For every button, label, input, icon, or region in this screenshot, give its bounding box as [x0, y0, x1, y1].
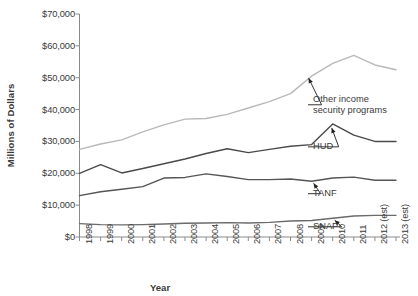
- hud-annotation-label: HUD: [313, 141, 333, 152]
- annotation-arrowhead: [331, 128, 335, 133]
- y-axis-tick-label: $30,000: [42, 136, 75, 146]
- y-axis-title-text: Millions of Dollars: [6, 83, 17, 167]
- other-income-annotation-line1: Other income: [313, 94, 387, 105]
- y-axis-tick-label: $50,000: [42, 73, 75, 83]
- axes: [80, 14, 401, 237]
- x-axis-tick-label: 2012 (est): [379, 204, 389, 244]
- x-axis-tick-label: 2006: [252, 224, 262, 244]
- x-axis-tick-label: 2003: [189, 224, 199, 244]
- y-axis-tick-label: $40,000: [42, 105, 75, 115]
- y-axis-tick-label: $70,000: [42, 9, 75, 19]
- x-axis-tick-label: 2008: [295, 224, 305, 244]
- snap-annotation-label: SNAP: [313, 221, 338, 232]
- y-axis-tick-label: $60,000: [42, 41, 75, 51]
- x-axis-title: Year: [150, 282, 170, 293]
- x-axis-tick-label: 1998: [84, 224, 94, 244]
- y-axis-title: Millions of Dollars: [0, 0, 22, 250]
- x-axis-tick-label: 1999: [105, 224, 115, 244]
- series-line: [80, 124, 397, 173]
- axis-ticks: [76, 14, 397, 241]
- x-axis-tick-label: 2011: [358, 225, 368, 244]
- y-axis-tick-label: $20,000: [42, 168, 75, 178]
- x-axis-tick-label: 2007: [273, 224, 283, 244]
- y-axis-tick-label: $10,000: [42, 200, 75, 210]
- x-axis-tick-label: 2013 (est): [400, 204, 410, 244]
- y-axis-tick-labels: $70,000$60,000$50,000$40,000$30,000$20,0…: [22, 0, 75, 296]
- x-axis-tick-label: 2000: [126, 224, 136, 244]
- series-lines: [80, 55, 397, 224]
- series-line: [80, 174, 397, 196]
- tanf-annotation-label: TANF: [313, 188, 337, 199]
- line-chart: Millions of Dollars $70,000$60,000$50,00…: [0, 0, 418, 296]
- x-axis-tick-label: 2002: [168, 224, 178, 244]
- x-axis-tick-label: 2005: [231, 224, 241, 244]
- y-axis-tick-label: $0: [65, 232, 75, 242]
- other-income-annotation-line2: security programs: [313, 105, 387, 116]
- other-income-annotation-label: Other income security programs: [313, 94, 387, 116]
- x-axis-tick-label: 2001: [147, 224, 157, 244]
- x-axis-tick-label: 2004: [210, 224, 220, 244]
